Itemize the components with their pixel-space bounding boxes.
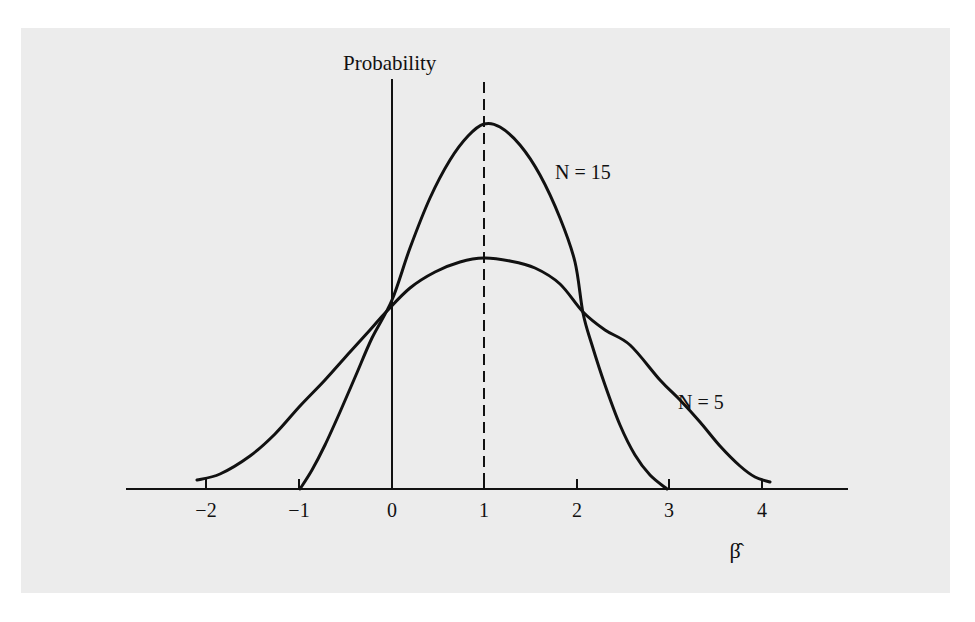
tick-label-neg1: −1 (288, 500, 309, 520)
chart-canvas (0, 0, 975, 622)
x-axis-ticks (206, 479, 762, 489)
tick-label-3: 3 (664, 500, 674, 520)
tick-label-1: 1 (479, 500, 489, 520)
x-axis-label: β̂ (729, 540, 740, 562)
series-label-n15: N = 15 (555, 162, 611, 182)
tick-label-0: 0 (387, 500, 397, 520)
series-label-n5: N = 5 (678, 392, 724, 412)
tick-label-2: 2 (572, 500, 582, 520)
tick-label-4: 4 (757, 500, 767, 520)
y-axis-label: Probability (343, 53, 436, 74)
tick-label-neg2: −2 (195, 500, 216, 520)
